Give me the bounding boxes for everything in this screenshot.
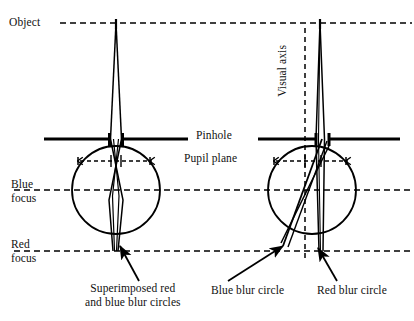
red-focus-label: Red focus xyxy=(11,238,36,265)
pupil-plane-label: Pupil plane xyxy=(184,152,237,166)
left-eye-group xyxy=(44,23,188,251)
blue-focus-label: Blue focus xyxy=(11,178,36,205)
visual-axis-label: Visual axis xyxy=(276,45,290,97)
red-blur-arrow xyxy=(318,248,337,281)
superimposed-blur-circles-label: Superimposed red and blue blur circles xyxy=(85,282,181,309)
red-blur-circle-label: Red blur circle xyxy=(317,284,387,298)
left-pinhole-bar xyxy=(44,133,188,146)
pinhole-label: Pinhole xyxy=(196,129,232,143)
left-ray-bundle xyxy=(109,23,123,251)
right-eyeball-circle xyxy=(268,146,356,234)
object-label: Object xyxy=(9,16,40,30)
optical-diagram-figure: Object Pinhole Pupil plane Blue focus Re… xyxy=(0,0,414,321)
object-point-ticks xyxy=(116,19,320,29)
right-pinhole-bar xyxy=(258,133,400,146)
blue-blur-circle-label: Blue blur circle xyxy=(211,284,284,298)
